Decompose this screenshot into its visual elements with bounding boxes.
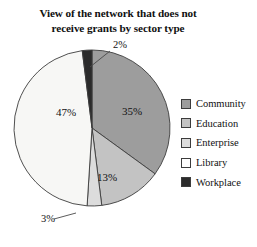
legend-item-enterprise[interactable]: Enterprise — [181, 133, 257, 153]
chart-title-line-1: View of the network that does not — [18, 6, 218, 21]
legend-item-label: Workplace — [196, 177, 241, 188]
value-label-education: 13% — [97, 171, 117, 183]
legend-item-community[interactable]: Community — [181, 94, 257, 114]
value-label-enterprise: 3% — [41, 213, 55, 224]
pie-plot-area: 35%13%3%47%2% — [0, 36, 185, 247]
legend-item-label: Library — [196, 157, 227, 168]
legend-swatch-icon — [181, 138, 191, 148]
pie-chart-figure: View of the network that does not receiv… — [0, 0, 257, 247]
chart-title-line-2: receive grants by sector type — [18, 21, 218, 36]
legend-item-education[interactable]: Education — [181, 114, 257, 134]
legend-swatch-icon — [181, 158, 191, 168]
legend-swatch-icon — [181, 118, 191, 128]
chart-legend: CommunityEducationEnterpriseLibraryWorkp… — [181, 94, 257, 192]
pie-svg: 35%13%3%47%2% — [0, 36, 185, 247]
legend-item-library[interactable]: Library — [181, 153, 257, 173]
leader-line-enterprise — [54, 213, 76, 219]
chart-title: View of the network that does not receiv… — [18, 6, 218, 36]
legend-swatch-icon — [181, 99, 191, 109]
value-label-library: 47% — [56, 106, 76, 118]
legend-item-label: Enterprise — [196, 137, 239, 148]
pie-slice-library — [14, 51, 92, 206]
legend-item-label: Education — [196, 118, 238, 129]
value-label-workplace: 2% — [113, 39, 127, 50]
legend-swatch-icon — [181, 177, 191, 187]
value-label-community: 35% — [122, 105, 142, 117]
pie-slices — [14, 50, 170, 206]
legend-item-workplace[interactable]: Workplace — [181, 172, 257, 192]
legend-item-label: Community — [196, 98, 246, 109]
